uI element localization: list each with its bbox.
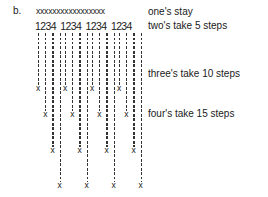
figure-label: b. bbox=[13, 5, 21, 16]
step-column bbox=[114, 33, 115, 182]
end-x-marker: x bbox=[112, 181, 116, 189]
end-x-marker: x bbox=[58, 181, 62, 189]
step-column bbox=[141, 33, 142, 182]
digit-group: 1234 bbox=[35, 20, 56, 32]
end-x-marker: x bbox=[97, 110, 101, 118]
step-column bbox=[52, 33, 53, 147]
end-x-marker: x bbox=[43, 110, 47, 118]
caption-threes: three's take 10 steps bbox=[148, 68, 240, 79]
step-column bbox=[60, 33, 61, 182]
end-x-marker: x bbox=[131, 146, 135, 154]
end-x-marker: x bbox=[104, 146, 108, 154]
digit-group: 1234 bbox=[60, 20, 81, 32]
step-column bbox=[133, 33, 134, 147]
caption-ones: one's stay bbox=[148, 6, 193, 17]
end-x-marker: x bbox=[85, 181, 89, 189]
step-column bbox=[126, 33, 127, 111]
caption-fours: four's take 15 steps bbox=[148, 108, 234, 119]
end-x-marker: x bbox=[90, 84, 94, 92]
end-x-marker: x bbox=[36, 84, 40, 92]
step-column bbox=[106, 33, 107, 147]
digit-row: 1234 1234 1234 1234 bbox=[35, 20, 134, 32]
digit-group: 1234 bbox=[86, 20, 107, 32]
end-x-marker: x bbox=[63, 84, 67, 92]
caption-twos: two's take 5 steps bbox=[148, 20, 227, 31]
step-column bbox=[99, 33, 100, 111]
end-x-marker: x bbox=[139, 181, 143, 189]
end-x-marker: x bbox=[50, 146, 54, 154]
step-column bbox=[92, 33, 93, 85]
step-column bbox=[87, 33, 88, 182]
end-x-marker: x bbox=[124, 110, 128, 118]
step-column bbox=[79, 33, 80, 147]
step-column bbox=[38, 33, 39, 85]
end-x-marker: x bbox=[70, 110, 74, 118]
end-x-marker: x bbox=[117, 84, 121, 92]
step-column bbox=[65, 33, 66, 85]
digit-group: 1234 bbox=[111, 20, 132, 32]
step-column bbox=[119, 33, 120, 85]
step-column bbox=[45, 33, 46, 111]
end-x-marker: x bbox=[77, 146, 81, 154]
step-column bbox=[72, 33, 73, 111]
top-x-row: xxxxxxxxxxxxxxxxx bbox=[36, 6, 105, 16]
